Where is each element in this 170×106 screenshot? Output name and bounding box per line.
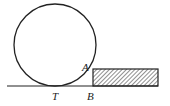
label-b: B — [87, 90, 94, 102]
circle — [14, 4, 96, 86]
hatched-block — [93, 69, 158, 86]
diagram-canvas: A T B — [0, 0, 170, 106]
label-t: T — [52, 90, 59, 102]
label-a: A — [81, 61, 89, 73]
